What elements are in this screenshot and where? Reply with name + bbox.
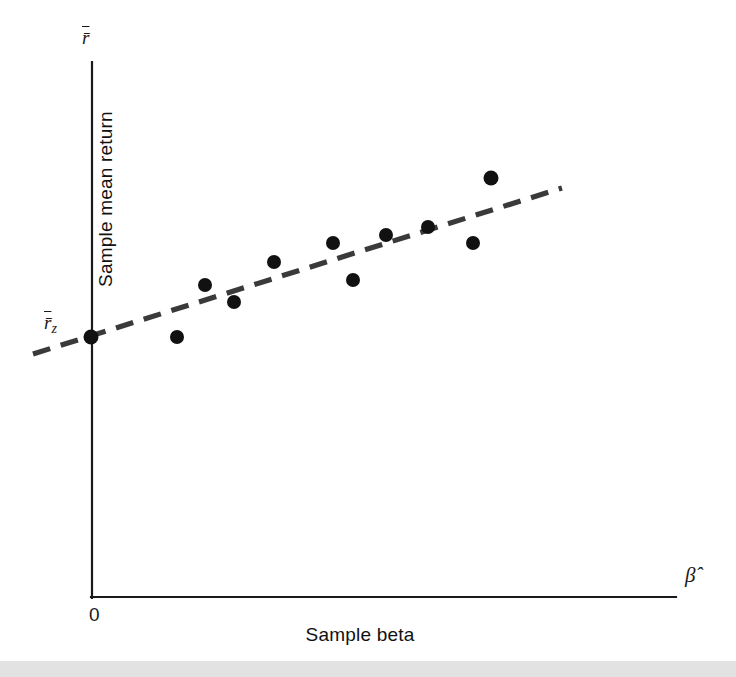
- y-intercept-label: r̄z: [44, 313, 57, 335]
- axes-group: [91, 62, 676, 598]
- y-intercept-label-subscript: z: [51, 320, 56, 336]
- data-point: [198, 278, 212, 292]
- data-point: [466, 236, 480, 250]
- data-point: [421, 220, 435, 234]
- x-axis-symbol: β̂: [685, 565, 695, 586]
- bottom-border-band: [0, 661, 736, 677]
- data-point: [84, 330, 99, 345]
- data-point: [346, 273, 360, 287]
- x-axis-title: Sample beta: [0, 624, 736, 646]
- y-axis-symbol: r̄: [82, 28, 89, 47]
- y-axis-title: Sample mean return: [95, 89, 117, 309]
- figure-container: r̄ r̄z β̂ 0 Sample beta Sample mean retu…: [0, 0, 736, 677]
- data-point: [326, 236, 340, 250]
- x-axis-title-text: Sample beta: [306, 624, 415, 646]
- origin-label: 0: [89, 605, 100, 624]
- data-point: [484, 171, 499, 186]
- data-point: [267, 255, 281, 269]
- data-point: [227, 295, 241, 309]
- data-point: [379, 228, 393, 242]
- data-point: [170, 330, 184, 344]
